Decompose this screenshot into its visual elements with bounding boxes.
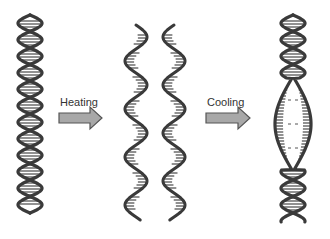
cooling-label: Cooling <box>207 96 244 108</box>
heating-arrow-icon <box>59 107 102 129</box>
separated-strands <box>125 25 185 220</box>
reannealed-helix-with-bubble <box>275 15 311 222</box>
dna-diagram <box>0 0 330 239</box>
cooling-arrow-icon <box>206 107 250 129</box>
heating-label: Heating <box>60 96 98 108</box>
double-helix <box>18 15 42 213</box>
